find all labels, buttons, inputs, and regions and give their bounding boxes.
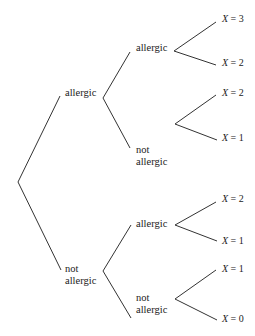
outcome-eq: =	[228, 263, 239, 274]
outcome-eq: =	[228, 87, 239, 98]
outcome-x0: X = 0	[222, 313, 244, 325]
outcome-value: 3	[239, 13, 244, 24]
label-line: allergic	[136, 156, 167, 167]
outcome-value: 2	[239, 87, 244, 98]
edge-aa-x2	[174, 51, 216, 65]
label-line: not	[136, 144, 149, 155]
label-line: allergic	[136, 218, 167, 229]
edge-root-allergic	[18, 96, 60, 182]
edge-root-not-allergic	[18, 182, 61, 270]
outcome-x1: X = 1	[222, 132, 244, 144]
node-label-not-allergic: not allergic	[65, 263, 96, 287]
label-line: allergic	[65, 275, 96, 286]
edge-n-na	[103, 225, 131, 271]
outcome-eq: =	[228, 132, 239, 143]
outcome-eq: =	[228, 57, 239, 68]
outcome-x1: X = 1	[222, 263, 244, 275]
outcome-x3: X = 3	[222, 13, 244, 25]
outcome-x2: X = 2	[222, 87, 244, 99]
edge-aa-x3	[174, 22, 216, 51]
outcome-value: 0	[239, 313, 244, 324]
edge-na-x2	[175, 202, 216, 225]
edge-na-x1	[175, 225, 217, 241]
edge-an-x2	[175, 95, 216, 124]
outcome-eq: =	[228, 13, 239, 24]
outcome-value: 1	[239, 263, 244, 274]
edge-nn-x0	[175, 299, 217, 320]
node-label-not-allergic-not-allergic: not allergic	[136, 292, 167, 316]
outcome-value: 1	[239, 235, 244, 246]
edge-a-aa	[103, 52, 130, 98]
edge-an-x1	[175, 124, 217, 140]
outcome-value: 1	[239, 132, 244, 143]
outcome-value: 2	[239, 193, 244, 204]
outcome-x2: X = 2	[222, 57, 244, 69]
label-line: not	[65, 263, 78, 274]
label-line: allergic	[136, 42, 167, 53]
outcome-x1: X = 1	[222, 235, 244, 247]
label-line: allergic	[65, 87, 96, 98]
edge-nn-x1	[175, 270, 216, 299]
node-label-not-allergic-allergic: allergic	[136, 218, 167, 230]
outcome-x2: X = 2	[222, 193, 244, 205]
label-line: not	[136, 292, 149, 303]
label-line: allergic	[136, 304, 167, 315]
edge-n-nn	[103, 271, 131, 318]
tree-diagram	[0, 0, 255, 336]
outcome-value: 2	[239, 57, 244, 68]
edge-a-an	[103, 98, 130, 148]
node-label-allergic: allergic	[65, 87, 96, 99]
outcome-eq: =	[228, 313, 239, 324]
outcome-eq: =	[228, 235, 239, 246]
outcome-eq: =	[228, 193, 239, 204]
node-label-allergic-allergic: allergic	[136, 42, 167, 54]
node-label-allergic-not-allergic: not allergic	[136, 144, 167, 168]
